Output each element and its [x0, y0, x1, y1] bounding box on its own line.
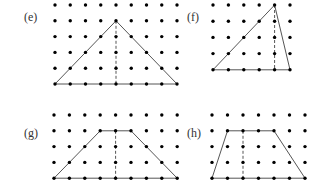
grid-dot [241, 145, 244, 148]
grid-dot [69, 67, 72, 70]
grid-dot [211, 52, 214, 55]
grid-dot [114, 35, 117, 38]
grid-dot [210, 161, 213, 164]
panel-label-h: (h) [187, 126, 201, 140]
shape-outline [212, 131, 305, 178]
grid-dot [53, 35, 56, 38]
grid-dot [84, 82, 87, 85]
grid-dot [145, 3, 148, 6]
grid-dot [99, 19, 102, 22]
grid-dot [53, 19, 56, 22]
grid-dot [210, 145, 213, 148]
grid-dot [175, 51, 178, 54]
grid-dot [257, 113, 260, 116]
grid-dot [226, 177, 229, 180]
grid-dot [303, 113, 306, 116]
grid-dot [288, 36, 291, 39]
grid-dot [226, 129, 229, 132]
grid-dot [241, 129, 244, 132]
grid-dot [145, 19, 148, 22]
grid-dot [211, 68, 214, 71]
grid-dot [99, 129, 102, 132]
panel-g: (g) [24, 113, 179, 180]
dot-grid-diagram: (e) (f) (g) (h) [0, 0, 320, 192]
grid-dot [68, 145, 71, 148]
grid-dot [226, 145, 229, 148]
grid-dot [52, 161, 55, 164]
grid-dot [227, 36, 230, 39]
grid-dot [99, 82, 102, 85]
grid-dot [160, 145, 163, 148]
grid-dot [211, 3, 214, 6]
grid-dot [175, 19, 178, 22]
grid-dot [272, 177, 275, 180]
panel-label-e: (e) [24, 10, 37, 24]
grid-dot [84, 67, 87, 70]
grid-dot [129, 113, 132, 116]
grid-dot [129, 161, 132, 164]
grid-dot [69, 19, 72, 22]
grid-dot [288, 177, 291, 180]
grid-dot [83, 161, 86, 164]
grid-dot [258, 20, 261, 23]
grid-dot [130, 3, 133, 6]
grid-dot [273, 3, 276, 6]
grid-dot [258, 3, 261, 6]
grid-dot [303, 177, 306, 180]
grid-dot [242, 52, 245, 55]
grid-dot [145, 35, 148, 38]
grid-dot [53, 51, 56, 54]
grid-dot [211, 36, 214, 39]
grid-dot [145, 145, 148, 148]
grid-dot [114, 19, 117, 22]
grid-dot [288, 161, 291, 164]
grid-dot [272, 129, 275, 132]
grid-dot [84, 19, 87, 22]
grid-dot [69, 51, 72, 54]
grid-dot [160, 82, 163, 85]
grid-dot [160, 67, 163, 70]
grid-dot [68, 177, 71, 180]
grid-dot [272, 161, 275, 164]
grid-dot [258, 52, 261, 55]
grid-dot [130, 67, 133, 70]
grid-dot [99, 51, 102, 54]
grid-dot [242, 3, 245, 6]
grid-dot [176, 129, 179, 132]
grid-dot [53, 3, 56, 6]
grid-dot [227, 20, 230, 23]
grid-dot [160, 35, 163, 38]
grid-dot [175, 3, 178, 6]
grid-dot [175, 35, 178, 38]
grid-dot [114, 67, 117, 70]
grid-dot [210, 129, 213, 132]
grid-dot [145, 82, 148, 85]
grid-dot [69, 35, 72, 38]
grid-dot [114, 161, 117, 164]
grid-dot [257, 161, 260, 164]
grid-dot [84, 35, 87, 38]
grid-dot [227, 68, 230, 71]
grid-dot [52, 113, 55, 116]
grid-dot [130, 19, 133, 22]
grid-dot [145, 67, 148, 70]
grid-dot [99, 161, 102, 164]
grid-dot [160, 51, 163, 54]
grid-dot [242, 36, 245, 39]
grid-dot [210, 113, 213, 116]
grid-dot [129, 177, 132, 180]
grid-dot [99, 35, 102, 38]
grid-dot [160, 177, 163, 180]
panel-h: (h) [187, 113, 307, 180]
grid-dot [114, 177, 117, 180]
grid-dot [83, 113, 86, 116]
grid-dot [160, 161, 163, 164]
grid-dot [99, 3, 102, 6]
grid-dot [160, 19, 163, 22]
grid-dot [227, 52, 230, 55]
grid-dot [160, 3, 163, 6]
grid-dot [175, 67, 178, 70]
grid-dot [273, 36, 276, 39]
grid-dot [303, 145, 306, 148]
panel-f: (f) [187, 3, 292, 71]
